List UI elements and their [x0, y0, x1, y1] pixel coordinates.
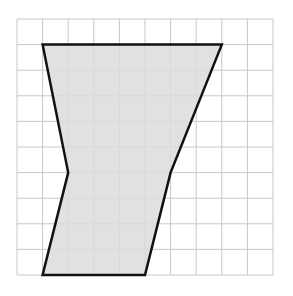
shaded-polygon: [43, 45, 222, 275]
grid-diagram: [0, 0, 293, 296]
